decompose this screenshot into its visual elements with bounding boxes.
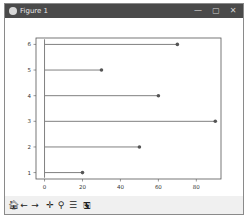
y-tick-label: 1	[28, 170, 32, 176]
window-title: Figure 1	[20, 6, 48, 16]
home-icon[interactable]: 🏠︎	[8, 199, 18, 211]
x-tick-label: 80	[193, 184, 200, 190]
figure-window: Figure 1 — ▢ ✕ 020406080123456 🏠︎ ← → ✛ …	[4, 3, 244, 215]
chart: 020406080123456	[5, 18, 243, 196]
y-tick-label: 5	[28, 67, 32, 73]
forward-icon[interactable]: →	[30, 199, 40, 211]
configure-subplots-icon[interactable]: ☰	[68, 199, 78, 211]
data-marker	[138, 145, 142, 149]
data-marker	[214, 120, 218, 124]
plot-frame	[36, 38, 221, 179]
plot-canvas[interactable]: 020406080123456	[5, 18, 243, 196]
back-icon[interactable]: ←	[19, 199, 29, 211]
x-tick-label: 0	[43, 184, 47, 190]
data-marker	[157, 94, 161, 98]
x-tick-label: 20	[79, 184, 86, 190]
x-tick-label: 60	[155, 184, 162, 190]
title-bar[interactable]: Figure 1 — ▢ ✕	[5, 4, 243, 18]
app-icon	[9, 7, 17, 15]
maximize-button[interactable]: ▢	[209, 5, 223, 17]
y-tick-label: 3	[28, 118, 32, 124]
zoom-icon[interactable]: ⚲	[56, 199, 66, 211]
data-marker	[176, 43, 180, 47]
y-tick-label: 2	[28, 144, 32, 150]
data-marker	[81, 171, 85, 175]
y-tick-label: 4	[28, 93, 32, 99]
data-marker	[100, 68, 104, 72]
navigation-toolbar: 🏠︎ ← → ✛ ⚲ ☰ 🖫	[5, 196, 243, 214]
save-icon[interactable]: 🖫	[82, 199, 92, 211]
minimize-button[interactable]: —	[191, 5, 205, 17]
pan-icon[interactable]: ✛	[45, 199, 55, 211]
y-tick-label: 6	[28, 41, 32, 47]
x-tick-label: 40	[117, 184, 124, 190]
close-button[interactable]: ✕	[226, 5, 240, 17]
